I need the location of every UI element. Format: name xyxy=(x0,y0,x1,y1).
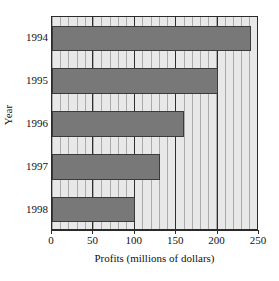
bar xyxy=(52,26,251,52)
y-tick-label: 1995 xyxy=(14,75,48,86)
x-axis-title: Profits (millions of dollars) xyxy=(51,252,258,264)
x-tick-label: 200 xyxy=(208,234,225,247)
y-tick-label: 1998 xyxy=(14,203,48,214)
y-tick-label: 1994 xyxy=(14,32,48,43)
bar xyxy=(52,111,184,137)
x-tick-label: 100 xyxy=(126,234,143,247)
plot-area xyxy=(51,16,258,230)
bar xyxy=(52,197,135,223)
y-axis-title-text: Year xyxy=(2,105,14,125)
x-tick-label: 0 xyxy=(48,234,54,247)
x-axis-tick-labels: 050100150200250 xyxy=(51,234,258,250)
bar xyxy=(52,68,218,94)
x-tick-label: 250 xyxy=(250,234,267,247)
y-axis-tick-labels: 19941995199619971998 xyxy=(14,16,51,230)
y-tick-label: 1997 xyxy=(14,160,48,171)
y-tick-label: 1996 xyxy=(14,118,48,129)
bars-layer xyxy=(52,17,257,229)
x-tick-label: 50 xyxy=(87,234,98,247)
bar-chart: Year 19941995199619971998 05010015020025… xyxy=(0,0,279,281)
bar xyxy=(52,154,160,180)
x-tick-label: 150 xyxy=(167,234,184,247)
